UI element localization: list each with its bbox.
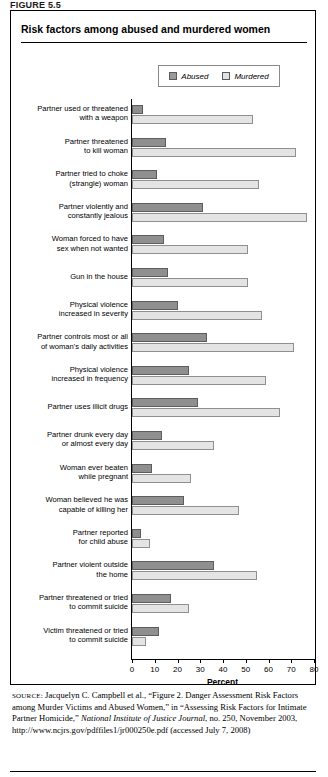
x-tick-label-20: 20 <box>173 665 182 674</box>
legend-label-abused: Abused <box>181 72 208 81</box>
chart-row: Woman ever beatenwhile pregnant <box>11 462 317 495</box>
chart-row: Woman forced to havesex when not wanted <box>11 233 317 266</box>
category-label: Partner threatenedto kill woman <box>16 137 128 156</box>
chart-title: Risk factors among abused and murdered w… <box>21 23 307 36</box>
category-label: Partner reportedfor child abuse <box>16 528 128 547</box>
bar-abused <box>132 529 141 538</box>
bar-murdered <box>132 474 191 483</box>
bar-murdered <box>132 408 280 417</box>
x-tick-50 <box>246 659 247 663</box>
title-divider <box>21 42 307 43</box>
bar-abused <box>132 268 168 277</box>
category-label: Partner uses illicit drugs <box>16 402 128 411</box>
category-label: Physical violenceincreased in severity <box>16 300 128 319</box>
category-label: Physical violenceincreased in frequency <box>16 365 128 384</box>
y-axis-line <box>131 99 132 659</box>
category-label: Partner tried to choke(strangle) woman <box>16 169 128 188</box>
category-label: Partner violent outsidethe home <box>16 560 128 579</box>
x-tick-label-80: 80 <box>310 665 319 674</box>
chart-row: Partner tried to choke(strangle) woman <box>11 168 317 201</box>
bar-abused <box>132 105 143 114</box>
legend-swatch-abused <box>169 72 177 80</box>
x-tick-label-40: 40 <box>219 665 228 674</box>
x-tick-70 <box>291 659 292 663</box>
bar-murdered <box>132 245 248 254</box>
plot-area: Partner used or threatenedwith a weaponP… <box>11 99 317 667</box>
chart-row: Physical violenceincreased in severity <box>11 299 317 332</box>
bar-murdered <box>132 571 257 580</box>
chart-row: Woman believed he wascapable of killing … <box>11 494 317 527</box>
source-journal: National Institute of Justice Journal <box>81 713 205 723</box>
bar-murdered <box>132 343 294 352</box>
bar-murdered <box>132 115 253 124</box>
chart-row: Partner drunk every dayor almost every d… <box>11 429 317 462</box>
bar-murdered <box>132 637 146 646</box>
figure-label: FIGURE 5.5 <box>10 0 61 10</box>
bar-abused <box>132 398 198 407</box>
bar-abused <box>132 627 159 636</box>
bar-abused <box>132 301 178 310</box>
x-tick-label-0: 0 <box>130 665 134 674</box>
legend-item-abused: Abused <box>169 72 208 81</box>
x-tick-label-10: 10 <box>150 665 159 674</box>
legend-item-murdered: Murdered <box>222 72 268 81</box>
source-note: SOURCE: Jacquelyn C. Campbell et al., “F… <box>12 690 316 736</box>
chart-row: Partner used or threatenedwith a weapon <box>11 103 317 136</box>
chart-legend: Abused Murdered <box>158 65 280 87</box>
x-tick-label-70: 70 <box>287 665 296 674</box>
x-tick-80 <box>314 659 315 663</box>
bar-abused <box>132 366 189 375</box>
x-tick-10 <box>155 659 156 663</box>
bar-abused <box>132 496 184 505</box>
bar-abused <box>132 431 162 440</box>
category-label: Partner controls most or allof woman's d… <box>16 332 128 351</box>
bar-abused <box>132 333 207 342</box>
x-axis-title: Percent <box>131 677 314 687</box>
category-label: Woman believed he wascapable of killing … <box>16 495 128 514</box>
chart-row: Partner threatenedto kill woman <box>11 136 317 169</box>
category-label: Partner violently andconstantly jealous <box>16 202 128 221</box>
category-label: Partner threatened or triedto commit sui… <box>16 593 128 612</box>
x-tick-20 <box>178 659 179 663</box>
bar-murdered <box>132 441 214 450</box>
bar-abused <box>132 235 164 244</box>
chart-row: Victim threatened or triedto commit suic… <box>11 625 317 658</box>
chart-row: Partner violently andconstantly jealous <box>11 201 317 234</box>
legend-label-murdered: Murdered <box>234 72 268 81</box>
chart-row: Partner threatened or triedto commit sui… <box>11 592 317 625</box>
category-label: Partner drunk every dayor almost every d… <box>16 430 128 449</box>
category-label: Woman forced to havesex when not wanted <box>16 234 128 253</box>
x-tick-0 <box>132 659 133 663</box>
x-tick-label-60: 60 <box>264 665 273 674</box>
chart-row: Partner controls most or allof woman's d… <box>11 331 317 364</box>
category-label: Woman ever beatenwhile pregnant <box>16 463 128 482</box>
bar-abused <box>132 170 157 179</box>
bar-abused <box>132 594 171 603</box>
bar-murdered <box>132 311 262 320</box>
bar-abused <box>132 464 152 473</box>
chart-row: Partner reportedfor child abuse <box>11 527 317 560</box>
chart-row: Physical violenceincreased in frequency <box>11 364 317 397</box>
bar-murdered <box>132 148 296 157</box>
chart-row: Partner violent outsidethe home <box>11 559 317 592</box>
bar-abused <box>132 203 203 212</box>
chart-row: Partner uses illicit drugs <box>11 396 317 429</box>
x-tick-label-50: 50 <box>241 665 250 674</box>
x-tick-label-30: 30 <box>196 665 205 674</box>
bar-abused <box>132 138 166 147</box>
x-tick-60 <box>269 659 270 663</box>
bar-murdered <box>132 278 248 287</box>
bar-abused <box>132 561 214 570</box>
x-tick-30 <box>200 659 201 663</box>
bar-murdered <box>132 213 307 222</box>
chart-row: Gun in the house <box>11 266 317 299</box>
bar-murdered <box>132 506 239 515</box>
bar-murdered <box>132 539 150 548</box>
source-prefix: SOURCE: <box>12 692 43 700</box>
category-label: Partner used or threatenedwith a weapon <box>16 104 128 123</box>
chart-panel: Risk factors among abused and murdered w… <box>10 10 316 685</box>
x-tick-40 <box>223 659 224 663</box>
category-label: Gun in the house <box>16 272 128 281</box>
bar-murdered <box>132 604 189 613</box>
legend-swatch-murdered <box>222 72 230 80</box>
